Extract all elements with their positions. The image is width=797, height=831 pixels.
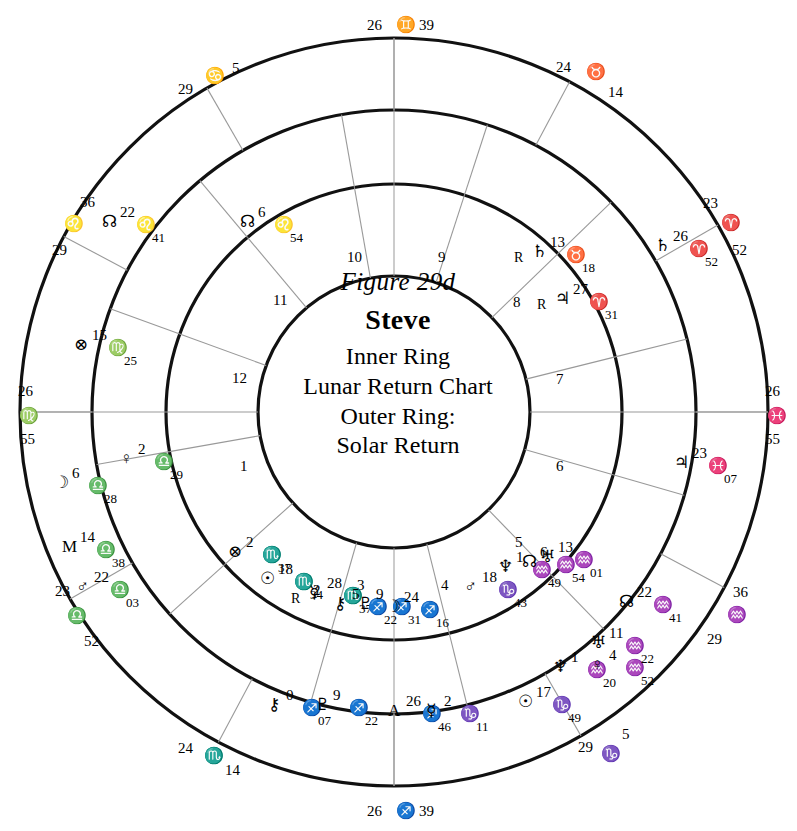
glyph-chiron-icon: ⚷ — [334, 595, 346, 612]
cusp-minute-9: 52 — [84, 634, 99, 649]
degree-uranus: 13 — [558, 540, 573, 555]
minute-venus: 52 — [641, 674, 654, 687]
glyph-mars-icon: ♂ — [464, 578, 477, 595]
glyph-saturn-icon: ♄ — [532, 243, 547, 260]
cusp-sign-6: ♑ — [601, 746, 621, 762]
retrograde-marker-mercury: R — [291, 592, 300, 606]
degree-pluto: 9 — [376, 587, 384, 602]
outer-ring-planet-uranus: ♅11♒22 — [589, 626, 661, 672]
degree-mars: 22 — [94, 570, 109, 585]
glyph-jupiter-icon: ♃ — [674, 454, 689, 471]
degree-north-node-2: 22 — [637, 585, 652, 600]
outer-ring-planet-mercury: ☿2♑11 — [424, 694, 496, 740]
glyph-mercury-icon: ☿ — [309, 584, 319, 601]
minute-jupiter: 07 — [724, 472, 737, 485]
house-number-8: 8 — [513, 295, 521, 310]
inner-ring-planet-moon: ☽24♐16 — [384, 590, 456, 636]
outer-ring-planet-north-node: ☊22♌41 — [100, 205, 172, 251]
house-number-11: 11 — [273, 293, 287, 308]
cusp-degree-4: 26 — [765, 384, 780, 399]
minute-north-node: 41 — [152, 231, 165, 244]
house-number-6: 6 — [556, 459, 564, 474]
cusp-sign-1: ♊ — [396, 17, 416, 33]
outer-ring-planet-fortune: ⊗15♍25 — [72, 328, 144, 374]
glyph-north-node-2-icon: ☊ — [619, 593, 634, 610]
degree-midheaven: 14 — [80, 530, 95, 545]
minute-mars: 03 — [126, 596, 139, 609]
cusp-degree-10: 26 — [18, 384, 33, 399]
glyph-venus-icon: ♀ — [120, 450, 133, 467]
inner-ring-planet-venus: ♀2♎29 — [118, 442, 190, 488]
cusp-sign-11: ♌ — [64, 216, 84, 232]
degree-mercury: 2 — [444, 694, 452, 709]
inner-ring-planet-saturn: R♄13♉18 — [530, 235, 602, 281]
cusp-degree-9: 23 — [55, 584, 70, 599]
cusp-minute-1: 39 — [419, 18, 434, 33]
glyph-north-node-icon: ☊ — [240, 213, 255, 230]
cusp-minute-2: 14 — [608, 85, 623, 100]
minute-venus: 29 — [170, 468, 183, 481]
minute-saturn: 18 — [582, 261, 595, 274]
minute-north-node: 54 — [290, 231, 303, 244]
house-number-12: 12 — [232, 371, 247, 386]
cusp-sign-7: ♐ — [396, 803, 416, 819]
degree-fortune: 2 — [246, 535, 254, 550]
inner-ring-label: Inner Ring — [274, 342, 522, 372]
glyph-sun-icon: ☉ — [260, 570, 275, 587]
glyph-jupiter-2-icon: ♃ — [555, 290, 570, 307]
inner-ring-planet-north-node: ☊6♌54 — [238, 205, 310, 251]
cusp-degree-11: 36 — [80, 195, 95, 210]
glyph-north-node-icon: ☊ — [102, 213, 117, 230]
cusp-sign-10: ♍ — [19, 408, 39, 424]
minute-moon: 28 — [104, 492, 117, 505]
glyph-moon-icon: ☽ — [386, 598, 401, 615]
cusp-sign-8: ♏ — [204, 748, 224, 764]
outer-ring-planet-saturn: ♄26♈52 — [653, 229, 725, 275]
degree-chiron: 0 — [286, 688, 294, 703]
cusp-sign-2: ♉ — [586, 64, 606, 80]
minute-fortune: 25 — [124, 354, 137, 367]
minute-uranus: 01 — [590, 566, 603, 579]
house-number-9: 9 — [438, 250, 446, 265]
outer-ring-label: Outer Ring: — [274, 402, 522, 432]
degree-moon: 24 — [404, 590, 419, 605]
minute-saturn: 52 — [705, 255, 718, 268]
cusp-degree-3: 23 — [703, 196, 718, 211]
degree-jupiter-2: 27 — [573, 282, 588, 297]
figure-label: Figure 29d — [274, 268, 522, 296]
glyph-fortune-icon: ⊗ — [74, 336, 88, 353]
cusp-minute-4: 55 — [765, 432, 780, 447]
degree-moon: 6 — [72, 466, 80, 481]
chart-subject-name: Steve — [274, 304, 522, 336]
degree-sun: 17 — [536, 685, 551, 700]
glyph-north-node-2-icon: ☊ — [522, 553, 537, 570]
cusp-sign-4: ♓ — [767, 408, 787, 424]
cusp-minute-8: 14 — [225, 763, 240, 778]
degree-neptune: 1 — [571, 650, 579, 665]
retrograde-marker-jupiter-2: R — [537, 298, 546, 312]
outer-ring-planet-mars: ♂22♎03 — [74, 570, 146, 616]
glyph-chiron-icon: ⚷ — [268, 696, 280, 713]
cusp-minute-7: 39 — [419, 804, 434, 819]
minute-mars: 43 — [514, 596, 527, 609]
retrograde-marker-saturn: R — [514, 251, 523, 265]
degree-sun: 18 — [278, 562, 293, 577]
glyph-uranus-icon: ♅ — [591, 634, 606, 651]
glyph-neptune-icon: ♆ — [553, 658, 568, 675]
glyph-neptune-icon: ♆ — [498, 558, 513, 575]
degree-venus: 2 — [138, 442, 146, 457]
cusp-degree-2: 24 — [556, 60, 571, 75]
cusp-minute-10: 55 — [20, 432, 35, 447]
degree-north-node: 6 — [258, 205, 266, 220]
minute-north-node-2: 41 — [669, 611, 682, 624]
glyph-pluto-icon: ♇ — [315, 696, 330, 713]
minute-midheaven: 38 — [112, 556, 125, 569]
cusp-minute-5: 29 — [707, 632, 722, 647]
degree-north-node: 22 — [120, 205, 135, 220]
degree-pluto: 9 — [333, 688, 341, 703]
minute-pluto: 22 — [365, 714, 378, 727]
degree-saturn: 13 — [550, 235, 565, 250]
degree-ascendant: 26 — [406, 694, 421, 709]
outer-ring-planet-jupiter: ♃23♓07 — [672, 446, 744, 492]
glyph-ascendant-icon: A — [388, 702, 400, 719]
